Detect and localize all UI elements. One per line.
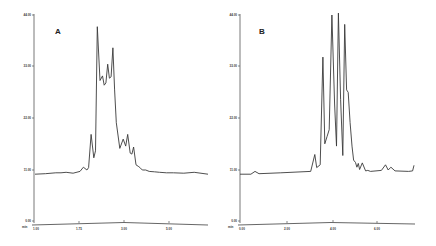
y-tick-label: 33.00 xyxy=(17,64,31,68)
y-tick-label: 22.00 xyxy=(223,116,237,120)
y-tick-label: 33.00 xyxy=(223,64,237,68)
corner-label-a: min xyxy=(22,225,27,229)
x-tick-label: 2.00 xyxy=(280,227,294,231)
y-tick-label: 22.00 xyxy=(17,116,31,120)
panel-label-b: B xyxy=(259,27,265,36)
x-tick-label: 5.00 xyxy=(162,227,176,231)
plot-area-a xyxy=(0,0,218,246)
x-tick-label: 4.00 xyxy=(326,227,340,231)
panel-label-a: A xyxy=(55,27,61,36)
x-tick-label: 0.00 xyxy=(235,227,249,231)
x-tick-label: 3.00 xyxy=(117,227,131,231)
corner-label-b: min xyxy=(228,225,233,229)
x-axis-a xyxy=(32,223,208,226)
x-tick-label: 6.00 xyxy=(370,227,384,231)
y-tick-label: 11.00 xyxy=(223,168,237,172)
y-tick-label: 0.00 xyxy=(17,219,31,223)
x-tick-label: 1.75 xyxy=(72,227,86,231)
y-tick-label: 44.00 xyxy=(223,13,237,17)
plot-area-b xyxy=(218,0,436,246)
y-tick-label: 0.00 xyxy=(223,219,237,223)
chart-panel-a: A 44.00 33.00 22.00 11.00 0.00 min 1.00 … xyxy=(0,0,218,246)
chart-panel-b: B 44.00 33.00 22.00 11.00 0.00 min 0.00 … xyxy=(218,0,436,246)
trace-line-a xyxy=(35,27,208,175)
x-tick-label: 1.00 xyxy=(29,227,43,231)
x-axis-b xyxy=(238,223,415,226)
trace-line-b xyxy=(240,13,414,174)
y-tick-label: 11.00 xyxy=(17,168,31,172)
y-tick-label: 44.00 xyxy=(17,13,31,17)
